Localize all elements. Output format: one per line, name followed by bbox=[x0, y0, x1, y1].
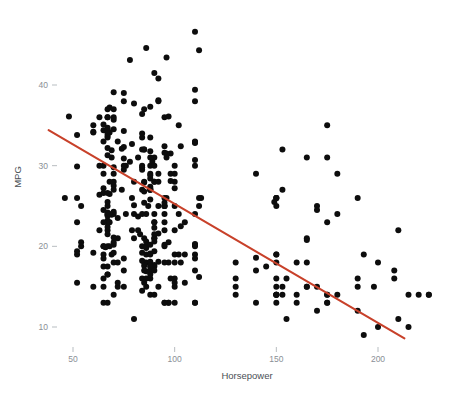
data-point bbox=[131, 316, 137, 322]
data-point bbox=[141, 106, 147, 112]
data-point bbox=[284, 316, 290, 322]
data-point bbox=[172, 185, 178, 191]
data-point bbox=[111, 292, 117, 298]
data-point bbox=[151, 238, 157, 244]
data-point bbox=[304, 259, 310, 265]
data-point bbox=[162, 227, 168, 233]
data-point bbox=[196, 47, 202, 53]
data-point bbox=[147, 251, 153, 257]
data-point bbox=[182, 280, 188, 286]
data-point bbox=[74, 248, 80, 254]
data-point bbox=[273, 292, 279, 298]
data-point bbox=[406, 292, 412, 298]
data-point bbox=[391, 268, 397, 274]
data-point bbox=[406, 324, 412, 330]
data-point bbox=[137, 231, 143, 237]
data-point bbox=[155, 259, 161, 265]
y-tick-label: 30 bbox=[39, 161, 49, 171]
data-point bbox=[115, 138, 121, 144]
data-point bbox=[192, 300, 198, 306]
data-point bbox=[151, 231, 157, 237]
data-point bbox=[107, 179, 113, 185]
data-point bbox=[111, 234, 117, 240]
data-point bbox=[172, 300, 178, 306]
data-point bbox=[129, 195, 135, 201]
data-point bbox=[375, 259, 381, 265]
data-point bbox=[121, 284, 127, 290]
data-point bbox=[147, 197, 153, 203]
data-point bbox=[66, 113, 72, 119]
data-point bbox=[192, 255, 198, 261]
data-point bbox=[172, 163, 178, 169]
data-point bbox=[334, 171, 340, 177]
data-point bbox=[101, 171, 107, 177]
x-axis-title: Horsepower bbox=[221, 370, 272, 381]
data-point bbox=[192, 242, 198, 248]
data-point bbox=[105, 152, 111, 158]
y-tick-label: 40 bbox=[39, 80, 49, 90]
data-point bbox=[96, 114, 102, 120]
x-tick-label: 200 bbox=[371, 354, 385, 364]
data-point bbox=[119, 187, 125, 193]
data-point bbox=[314, 207, 320, 213]
data-point bbox=[253, 255, 259, 261]
data-point bbox=[129, 227, 135, 233]
data-point bbox=[90, 122, 96, 128]
data-point bbox=[273, 300, 279, 306]
data-point bbox=[162, 259, 168, 265]
data-point bbox=[314, 308, 320, 314]
data-point bbox=[139, 130, 145, 136]
data-point bbox=[176, 211, 182, 217]
data-point bbox=[141, 263, 147, 269]
data-point bbox=[355, 276, 361, 282]
data-point bbox=[233, 284, 239, 290]
data-point bbox=[141, 280, 147, 286]
data-point bbox=[172, 171, 178, 177]
data-point bbox=[111, 259, 117, 265]
data-point bbox=[147, 134, 153, 140]
data-point bbox=[105, 114, 111, 120]
data-point bbox=[101, 300, 107, 306]
data-point bbox=[279, 292, 285, 298]
data-point bbox=[233, 276, 239, 282]
data-point bbox=[105, 190, 111, 196]
data-point bbox=[111, 171, 117, 177]
data-point bbox=[127, 57, 133, 63]
data-point bbox=[135, 213, 141, 219]
data-point bbox=[129, 141, 135, 147]
data-point bbox=[131, 235, 137, 241]
data-point bbox=[155, 171, 161, 177]
data-point bbox=[192, 268, 198, 274]
data-point bbox=[121, 90, 127, 96]
data-point bbox=[192, 139, 198, 145]
data-point bbox=[176, 122, 182, 128]
data-point bbox=[304, 284, 310, 290]
data-point bbox=[178, 259, 184, 265]
data-point bbox=[304, 155, 310, 161]
data-point bbox=[90, 250, 96, 256]
data-point bbox=[172, 259, 178, 265]
data-point bbox=[105, 130, 111, 136]
y-axis-title: MPG bbox=[12, 166, 23, 188]
scatter-chart: 50100150200 10203040 Horsepower MPG bbox=[0, 0, 454, 400]
x-tick-label: 150 bbox=[269, 354, 283, 364]
data-point bbox=[74, 280, 80, 286]
data-point bbox=[90, 129, 96, 135]
data-point bbox=[253, 300, 259, 306]
data-point bbox=[166, 113, 172, 119]
data-point bbox=[135, 155, 141, 161]
data-point bbox=[143, 45, 149, 51]
data-point bbox=[192, 87, 198, 93]
data-point bbox=[294, 259, 300, 265]
data-point bbox=[74, 195, 80, 201]
x-tick-label: 50 bbox=[68, 354, 78, 364]
data-point bbox=[155, 98, 161, 104]
data-point bbox=[105, 106, 111, 112]
data-point bbox=[155, 284, 161, 290]
data-point bbox=[121, 98, 127, 104]
data-point bbox=[273, 251, 279, 257]
data-point bbox=[155, 179, 161, 185]
data-point bbox=[139, 250, 145, 256]
data-point bbox=[101, 284, 107, 290]
data-point bbox=[151, 211, 157, 217]
